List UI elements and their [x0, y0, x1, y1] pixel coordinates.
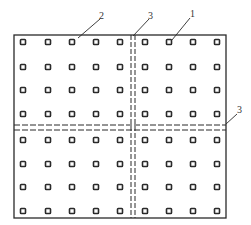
- callout-label-3-right: 3: [237, 105, 242, 115]
- square-dot-icon: [167, 185, 172, 190]
- square-dot-icon: [70, 185, 75, 190]
- square-dot-icon: [191, 112, 196, 117]
- square-dot-icon: [215, 185, 220, 190]
- dashed-joints: [14, 35, 226, 218]
- square-dot-icon: [46, 185, 51, 190]
- square-dot-icon: [143, 185, 148, 190]
- square-dot-icon: [46, 88, 51, 93]
- square-dot-icon: [167, 65, 172, 70]
- square-dot-icon: [46, 65, 51, 70]
- square-dot-icon: [191, 65, 196, 70]
- square-dot-icon: [167, 40, 172, 45]
- square-dot-icon: [21, 162, 26, 167]
- square-dot-icon: [70, 40, 75, 45]
- square-dot-icon: [94, 88, 99, 93]
- square-dot-icon: [94, 185, 99, 190]
- square-dot-icon: [143, 209, 148, 214]
- square-dot-icon: [167, 138, 172, 143]
- square-dot-icon: [191, 88, 196, 93]
- square-dot-icon: [70, 162, 75, 167]
- square-dot-icon: [70, 112, 75, 117]
- square-dot-icon: [143, 88, 148, 93]
- square-dot-icon: [118, 138, 123, 143]
- square-dot-icon: [21, 65, 26, 70]
- square-dot-icon: [118, 88, 123, 93]
- square-dot-icon: [70, 65, 75, 70]
- square-dot-icon: [70, 209, 75, 214]
- square-dot-icon: [118, 162, 123, 167]
- square-dot-icon: [167, 112, 172, 117]
- square-dot-icon: [21, 209, 26, 214]
- square-dot-icon: [21, 185, 26, 190]
- square-dot-icon: [143, 40, 148, 45]
- square-dot-icon: [94, 65, 99, 70]
- square-dot-icon: [118, 185, 123, 190]
- outer-frame: [14, 35, 226, 218]
- square-dot-icon: [94, 138, 99, 143]
- square-dot-icon: [191, 162, 196, 167]
- square-dot-icon: [215, 138, 220, 143]
- square-dot-icon: [143, 138, 148, 143]
- leader-line: [133, 19, 149, 36]
- square-dot-icon: [46, 112, 51, 117]
- callout-label-1: 1: [190, 9, 195, 19]
- square-dot-icon: [21, 138, 26, 143]
- square-dot-icon: [118, 65, 123, 70]
- square-dot-icon: [215, 88, 220, 93]
- square-dot-icon: [94, 162, 99, 167]
- square-dot-icon: [191, 138, 196, 143]
- square-dot-icon: [70, 88, 75, 93]
- diagram-canvas: [0, 0, 251, 225]
- square-dot-icon: [191, 40, 196, 45]
- square-dot-icon: [143, 162, 148, 167]
- square-dot-icon: [21, 112, 26, 117]
- square-dot-icon: [215, 65, 220, 70]
- square-dot-icon: [118, 112, 123, 117]
- square-dot-icon: [118, 209, 123, 214]
- square-dot-icon: [215, 209, 220, 214]
- square-dot-icon: [191, 209, 196, 214]
- square-dot-icon: [46, 138, 51, 143]
- square-dot-icon: [215, 40, 220, 45]
- grid-diagram: 2 3 1 3: [0, 0, 251, 225]
- square-dot-icon: [94, 112, 99, 117]
- square-dot-icon: [215, 112, 220, 117]
- square-dot-icon: [167, 162, 172, 167]
- square-dot-icon: [118, 40, 123, 45]
- callout-label-3-top: 3: [148, 11, 153, 21]
- square-dot-icon: [46, 40, 51, 45]
- square-dot-icon: [167, 88, 172, 93]
- leader-line: [226, 114, 237, 124]
- square-dot-icon: [21, 40, 26, 45]
- leader-line: [172, 18, 190, 40]
- square-dot-icon: [143, 65, 148, 70]
- square-dot-icon: [21, 88, 26, 93]
- square-dot-icon: [46, 162, 51, 167]
- square-dot-icon: [70, 138, 75, 143]
- square-dot-icon: [94, 40, 99, 45]
- square-dot-icon: [94, 209, 99, 214]
- square-dot-icon: [191, 185, 196, 190]
- square-dot-icon: [167, 209, 172, 214]
- square-dot-icon: [143, 112, 148, 117]
- dot-grid: [21, 40, 220, 214]
- square-dot-icon: [215, 162, 220, 167]
- callout-leaders: [78, 18, 237, 124]
- square-dot-icon: [46, 209, 51, 214]
- callout-label-2: 2: [99, 11, 104, 21]
